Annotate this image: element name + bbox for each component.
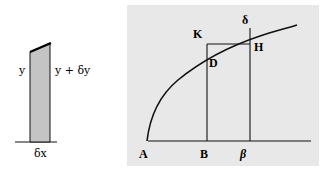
label-dx: δx <box>34 147 48 160</box>
label-beta: β <box>239 147 247 161</box>
label-y: y <box>18 64 26 77</box>
label-y-plus-dy: y + δy <box>54 64 91 77</box>
area-figure: A B β K D H δ <box>127 5 319 166</box>
diagram-canvas: y y + δy δx A B β K D H δ <box>0 0 327 174</box>
label-a: A <box>139 147 148 161</box>
figure-background <box>127 5 319 166</box>
strip-figure: y y + δy δx <box>15 43 91 160</box>
label-k: K <box>193 27 203 41</box>
label-d: D <box>209 56 218 70</box>
label-h: H <box>254 40 264 54</box>
label-delta: δ <box>242 13 248 27</box>
label-b: B <box>200 147 208 161</box>
strip-rectangle <box>30 43 50 142</box>
